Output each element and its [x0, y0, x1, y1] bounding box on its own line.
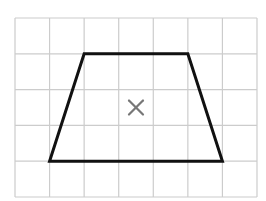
grid-diagram	[0, 0, 266, 201]
diagram-canvas	[0, 0, 266, 201]
centre-cross-icon	[129, 101, 143, 115]
